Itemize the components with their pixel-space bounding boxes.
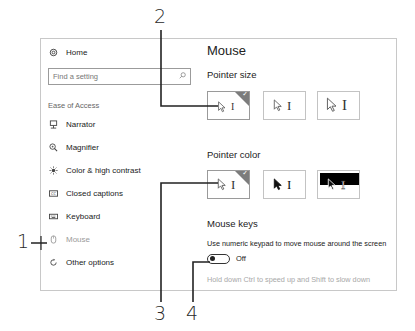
sidebar-item-keyboard[interactable]: Keyboard — [48, 208, 100, 224]
callout-1: 1 — [17, 230, 29, 252]
search-input[interactable]: Find a setting — [48, 68, 191, 85]
toggle-knob — [210, 256, 215, 261]
pointer-size-small[interactable]: ✓ I — [207, 91, 250, 120]
pointer-size-heading: Pointer size — [207, 69, 257, 80]
sidebar-item-label: Color & high contrast — [66, 166, 141, 175]
keyboard-icon — [48, 211, 58, 221]
text-cursor-icon: I — [341, 179, 345, 191]
pointer-color-white[interactable]: ✓ I — [207, 170, 250, 199]
sidebar-item-label: Closed captions — [66, 189, 123, 198]
sidebar-item-mouse[interactable]: Mouse — [48, 231, 90, 247]
sidebar-item-label: Keyboard — [66, 212, 100, 221]
sidebar-item-label: Narrator — [66, 120, 95, 129]
text-cursor-icon: I — [231, 179, 235, 191]
text-cursor-icon: I — [287, 179, 291, 191]
sidebar-item-label: Magnifier — [66, 143, 99, 152]
mouse-keys-description: Use numeric keypad to move mouse around … — [207, 239, 386, 248]
other-options-icon — [48, 257, 58, 267]
toggle-state-label: Off — [236, 254, 246, 263]
sidebar-item-home[interactable]: Home — [48, 44, 87, 60]
callout-4: 4 — [186, 302, 198, 324]
mouse-icon — [48, 234, 58, 244]
sidebar-item-label: Other options — [66, 258, 114, 267]
gear-icon — [48, 47, 58, 57]
sidebar-item-other-options[interactable]: Other options — [48, 254, 114, 270]
search-icon[interactable] — [179, 72, 186, 81]
callout-2: 2 — [154, 5, 166, 27]
mouse-keys-hint: Hold down Ctrl to speed up and Shift to … — [207, 275, 370, 284]
sidebar-item-magnifier[interactable]: Magnifier — [48, 139, 99, 155]
captions-icon: CC — [48, 188, 58, 198]
text-cursor-icon: I — [231, 101, 234, 113]
pointer-color-inverted[interactable]: I — [317, 170, 360, 199]
pointer-size-large[interactable]: I — [317, 91, 360, 120]
arrow-cursor-icon — [217, 101, 227, 113]
arrow-cursor-icon — [326, 97, 338, 113]
sidebar: Home Find a setting Ease of Access Narra… — [41, 39, 201, 290]
arrow-cursor-icon — [217, 178, 227, 191]
arrow-cursor-icon — [327, 178, 337, 191]
check-icon: ✓ — [242, 91, 248, 98]
text-cursor-icon: I — [342, 99, 347, 111]
svg-text:CC: CC — [50, 192, 56, 196]
pointer-size-medium[interactable]: I — [263, 91, 306, 120]
arrow-cursor-icon — [273, 178, 283, 191]
mouse-keys-toggle[interactable] — [207, 254, 230, 264]
search-placeholder: Find a setting — [53, 72, 98, 81]
callout-3: 3 — [154, 302, 166, 324]
magnifier-icon — [48, 142, 58, 152]
sidebar-item-narrator[interactable]: Narrator — [48, 116, 95, 132]
pointer-color-black[interactable]: I — [263, 170, 306, 199]
sidebar-item-label: Mouse — [66, 235, 90, 244]
page-title: Mouse — [207, 43, 246, 58]
sidebar-item-closed-captions[interactable]: CC Closed captions — [48, 185, 123, 201]
text-cursor-icon: I — [287, 100, 291, 112]
mouse-keys-heading: Mouse keys — [207, 218, 258, 229]
sidebar-item-label: Home — [66, 48, 87, 57]
pointer-color-heading: Pointer color — [207, 149, 260, 160]
arrow-cursor-icon — [273, 99, 283, 112]
section-label: Ease of Access — [48, 101, 99, 110]
settings-window: Home Find a setting Ease of Access Narra… — [40, 38, 397, 291]
main-content: Mouse Pointer size ✓ I I I Pointer color — [207, 39, 396, 290]
narrator-icon — [48, 119, 58, 129]
check-icon: ✓ — [242, 170, 248, 177]
sidebar-item-color-contrast[interactable]: Color & high contrast — [48, 162, 141, 178]
contrast-icon — [48, 165, 58, 175]
